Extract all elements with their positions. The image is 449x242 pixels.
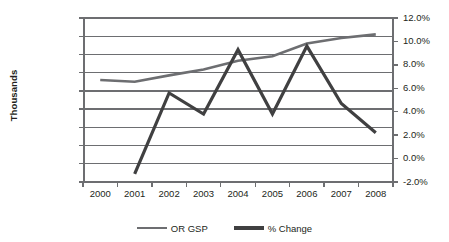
x-axis-tick-label: 2008 [353, 188, 399, 199]
x-axis-tick [151, 182, 152, 187]
right-axis-tick [393, 134, 398, 135]
right-axis-tick-label: 12.0% [403, 12, 449, 23]
x-axis-tick [186, 182, 187, 187]
legend-swatch-icon [137, 227, 167, 230]
right-axis-tick-label: 6.0% [403, 82, 449, 93]
legend-item[interactable]: OR GSP [137, 223, 208, 234]
chart-container: Thousands $0$20,000$40,000$60,000$80,000… [0, 0, 449, 242]
legend-swatch-icon [234, 226, 264, 230]
series-line-change [135, 46, 376, 174]
legend-label: % Change [268, 223, 312, 234]
right-axis-tick-label: 4.0% [403, 105, 449, 116]
x-axis-tick [220, 182, 221, 187]
x-axis-tick [358, 182, 359, 187]
right-axis-tick [393, 17, 398, 18]
right-axis-tick [393, 111, 398, 112]
legend-label: OR GSP [171, 223, 208, 234]
right-axis-tick [393, 158, 398, 159]
right-axis-tick [393, 88, 398, 89]
right-axis-tick [393, 64, 398, 65]
x-axis-tick [117, 182, 118, 187]
right-axis-tick-label: 0.0% [403, 152, 449, 163]
x-axis-tick [323, 182, 324, 187]
plot-area: $0$20,000$40,000$60,000$80,000$100,000$1… [83, 18, 393, 182]
right-axis-tick-label: 8.0% [403, 58, 449, 69]
series-line-or-gsp [100, 34, 376, 81]
y-axis-title: Thousands [8, 60, 19, 132]
series-layer [83, 18, 393, 182]
right-axis-tick-label: -2.0% [403, 176, 449, 187]
x-axis-tick [289, 182, 290, 187]
right-axis-tick-label: 10.0% [403, 35, 449, 46]
x-axis-tick [255, 182, 256, 187]
legend-item[interactable]: % Change [234, 223, 312, 234]
right-axis-tick [393, 41, 398, 42]
right-axis-tick-label: 2.0% [403, 129, 449, 140]
chart-legend: OR GSP% Change [0, 218, 449, 238]
